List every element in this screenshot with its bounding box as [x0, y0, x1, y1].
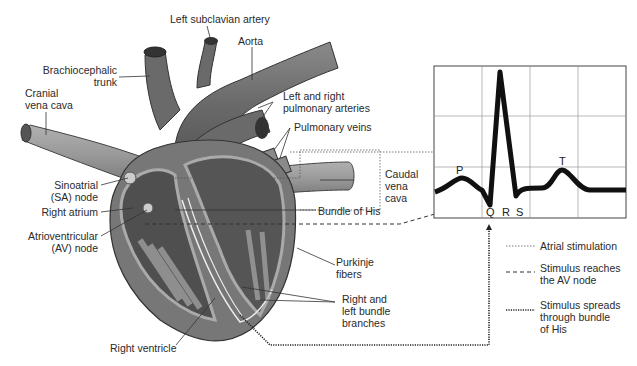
label-caudal-vena-cava: Caudal vena cava: [385, 168, 418, 204]
label-left-subclavian-artery: Left subclavian artery: [170, 13, 270, 25]
ecg-p-label: P: [456, 164, 463, 176]
ecg-t-label: T: [559, 155, 566, 167]
label-purkinje-fibers: Purkinje fibers: [336, 256, 374, 280]
ecg-r-label: R: [502, 206, 510, 218]
label-brachiocephalic-trunk: Brachiocephalic trunk: [42, 64, 117, 88]
label-av-node: Atrioventricular (AV) node: [10, 230, 98, 254]
heart-conduction-diagram: Left subclavian artery Aorta Brachioceph…: [0, 0, 637, 366]
label-right-ventricle: Right ventricle: [110, 342, 177, 354]
label-right-atrium: Right atrium: [20, 206, 98, 218]
legend-bundle-of-his: Stimulus spreads through bundle of His: [540, 299, 621, 335]
label-aorta: Aorta: [238, 35, 263, 47]
ecg-q-label: Q: [486, 206, 495, 218]
legend-av-node: Stimulus reaches the AV node: [540, 262, 621, 286]
label-sa-node: Sinoatrial (SA) node: [30, 179, 98, 203]
label-cranial-vena-cava: Cranial vena cava: [25, 87, 73, 111]
label-bundle-branches: Right and left bundle branches: [342, 293, 390, 329]
legend-atrial-stimulation: Atrial stimulation: [540, 240, 617, 252]
ecg-s-label: S: [516, 206, 523, 218]
label-bundle-of-his: Bundle of His: [318, 205, 380, 217]
label-pulmonary-arteries: Left and right pulmonary arteries: [283, 90, 370, 114]
label-pulmonary-veins: Pulmonary veins: [294, 121, 372, 133]
